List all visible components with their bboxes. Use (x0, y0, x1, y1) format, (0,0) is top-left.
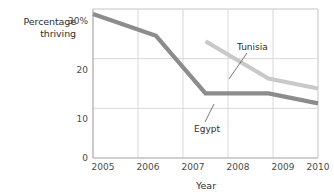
leader-line-egypt (205, 104, 214, 122)
series-label-egypt: Egypt (194, 124, 220, 134)
chart-container: Percentage thriving 30% 20 10 0 2005 200… (0, 0, 334, 196)
plot-area (0, 0, 334, 196)
series-label-tunisia: Tunisia (237, 42, 268, 52)
